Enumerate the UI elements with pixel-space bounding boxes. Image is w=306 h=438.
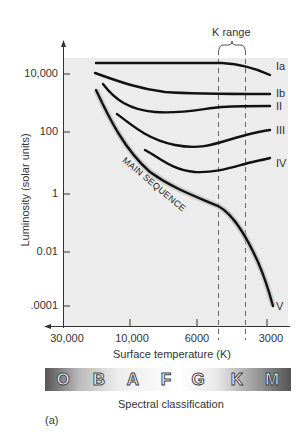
- spectral-classification-bar: O B A F G K M: [45, 368, 291, 391]
- spectral-class-A: A: [118, 369, 148, 390]
- class-label-Ia: Ia: [276, 60, 285, 72]
- y-tick-label: .0001: [2, 299, 58, 311]
- y-ticks: [63, 74, 70, 306]
- y-tick-label: 10,000: [2, 67, 58, 79]
- x-axis-arrow-icon: [44, 324, 51, 329]
- spectral-class-B: B: [84, 369, 114, 390]
- curve-II: [103, 84, 270, 112]
- curve-V-main-sequence: [96, 90, 273, 306]
- x-ticks: [130, 319, 267, 326]
- main-sequence-shadow: [96, 90, 273, 306]
- x-tick-label: 10,000: [107, 332, 157, 344]
- curve-IV: [145, 150, 270, 172]
- spectral-class-O: O: [48, 369, 78, 390]
- spectral-class-F: F: [151, 369, 181, 390]
- x-tick-label: 3000: [246, 332, 296, 344]
- panel-label: (a): [45, 414, 58, 426]
- k-range-brace: [219, 41, 245, 50]
- y-axis-arrow-icon: [61, 40, 66, 47]
- spectral-title: Spectral classification: [118, 398, 224, 410]
- curve-III: [117, 114, 270, 147]
- spectral-class-M: M: [257, 369, 287, 390]
- x-axis-title: Surface temperature (K): [113, 348, 231, 360]
- spectral-class-G: G: [183, 369, 213, 390]
- k-range-label: K range: [212, 26, 251, 38]
- class-label-II: II: [276, 100, 282, 112]
- spectral-class-K: K: [222, 369, 252, 390]
- curve-Ia: [96, 63, 270, 75]
- x-tick-label: 30,000: [42, 332, 92, 344]
- class-label-Ib: Ib: [276, 87, 285, 99]
- class-label-V: V: [276, 300, 283, 312]
- curve-Ib: [95, 73, 270, 94]
- class-label-III: III: [276, 124, 285, 136]
- y-axis-title: Luminosity (solar units): [19, 125, 31, 255]
- x-tick-label: 6000: [172, 332, 222, 344]
- class-label-IV: IV: [276, 157, 286, 169]
